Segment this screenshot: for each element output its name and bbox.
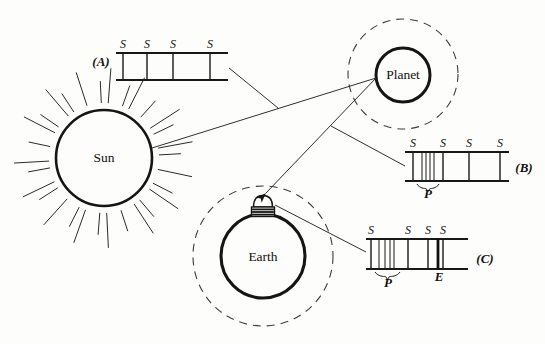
- e-line-label: E: [434, 269, 444, 284]
- s-line-label: S: [440, 136, 446, 150]
- s-line-label: S: [466, 136, 472, 150]
- s-line-label: S: [425, 223, 431, 237]
- p-group-label: P: [384, 275, 393, 290]
- sun-ray-icon: [76, 72, 87, 105]
- sun-ray-icon: [108, 68, 111, 103]
- sun-ray-icon: [134, 204, 153, 233]
- sun-ray-icon: [69, 207, 79, 227]
- sun-ray-icon: [107, 213, 109, 248]
- sun-ray-icon: [141, 101, 156, 117]
- sun-ray-icon: [98, 213, 100, 235]
- sun-ray-icon: [29, 142, 51, 147]
- sun-ray-icon: [100, 81, 101, 103]
- spectrum-a-pointer: [229, 68, 278, 108]
- s-line-label: S: [410, 136, 416, 150]
- sun-ray-icon: [150, 109, 179, 128]
- sun-label: Sun: [93, 150, 114, 165]
- sun-ray-icon: [129, 78, 145, 109]
- spectrum-a-group: SSSS(A): [92, 37, 228, 80]
- figure-page: SunPlanetEarthSSSS(A)SSSSP(B)SSSSPE(C): [0, 0, 545, 344]
- sun-ray-icon: [149, 189, 178, 209]
- sun-ray-icon: [14, 161, 49, 163]
- earth-label: Earth: [248, 249, 277, 264]
- sun-ray-icon: [40, 115, 58, 127]
- s-line-label: S: [144, 37, 150, 51]
- spectrum-a-caption: (A): [92, 54, 109, 69]
- p-group-label: P: [424, 186, 433, 201]
- sun-group: Sun: [14, 68, 192, 248]
- sun-planet-earth-spectra-diagram: SunPlanetEarthSSSS(A)SSSSP(B)SSSSPE(C): [0, 0, 545, 344]
- sun-ray-icon: [158, 169, 192, 176]
- s-line-label: S: [207, 37, 213, 51]
- s-line-label: S: [120, 37, 126, 51]
- sun-ray-icon: [121, 210, 128, 231]
- sun-ray-icon: [23, 182, 55, 197]
- sun-ray-icon: [154, 125, 174, 135]
- sun-ray-icon: [122, 85, 129, 106]
- spectrum-b-group: SSSSP(B): [405, 136, 533, 201]
- sun-ray-icon: [28, 168, 50, 172]
- s-line-label: S: [405, 223, 411, 237]
- sun-ray-icon: [39, 188, 57, 200]
- spectrum-b-caption: (B): [515, 160, 532, 175]
- sun-ray-icon: [62, 94, 74, 112]
- s-line-label: S: [170, 37, 176, 51]
- s-line-label: S: [368, 223, 374, 237]
- spectrum-b-pointer: [331, 126, 405, 166]
- s-line-label: S: [440, 223, 446, 237]
- sun-ray-icon: [24, 117, 55, 133]
- planet-label: Planet: [386, 67, 420, 82]
- sun-ray-icon: [44, 199, 67, 225]
- earth-group: Earth: [193, 186, 333, 326]
- spectrum-c-caption: (C): [476, 251, 493, 266]
- sun-ray-icon: [159, 154, 181, 155]
- spectrum-c-group: SSSSPE(C): [366, 223, 494, 290]
- sun-ray-icon: [153, 183, 173, 193]
- s-line-label: S: [497, 136, 503, 150]
- sun-ray-icon: [140, 200, 154, 217]
- spectrum-a-pointer-line: [229, 68, 278, 108]
- planet-group: Planet: [348, 19, 458, 129]
- spectrum-b-pointer-line: [331, 126, 405, 166]
- sun-ray-icon: [46, 89, 69, 116]
